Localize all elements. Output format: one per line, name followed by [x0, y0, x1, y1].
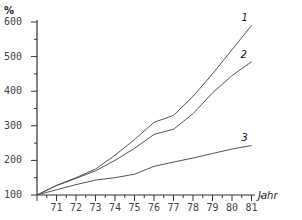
x-tick-label: 75	[129, 202, 141, 213]
y-tick-label: 300	[4, 120, 22, 131]
y-tick-label: 500	[4, 51, 22, 62]
x-axis-title: Jahr	[256, 190, 278, 201]
series-line-2	[37, 62, 252, 195]
line-chart: 100200300400500600 717273747576777879808…	[0, 0, 302, 220]
y-axis-unit-label: %	[4, 5, 14, 16]
y-tick-label: 200	[4, 154, 22, 165]
x-tick-label: 76	[148, 202, 160, 213]
x-tick-label: 74	[109, 202, 121, 213]
series-label-1: 1	[242, 12, 248, 23]
series-lines: 123	[37, 12, 252, 195]
x-tick-label: 79	[207, 202, 219, 213]
x-axis: 7172737475767778798081	[37, 195, 261, 213]
series-line-3	[37, 146, 252, 196]
x-tick-label: 80	[226, 202, 238, 213]
x-tick-label: 78	[187, 202, 199, 213]
x-tick-label: 77	[168, 202, 180, 213]
series-label-3: 3	[242, 132, 248, 143]
x-tick-label: 73	[90, 202, 102, 213]
x-tick-label: 71	[51, 202, 63, 213]
y-tick-label: 400	[4, 85, 22, 96]
y-axis: 100200300400500600	[4, 16, 37, 200]
series-line-1	[37, 26, 252, 196]
x-tick-label: 72	[70, 202, 82, 213]
x-tick-label: 81	[246, 202, 258, 213]
y-tick-label: 100	[4, 189, 22, 200]
y-tick-label: 600	[4, 16, 22, 27]
series-label-2: 2	[241, 49, 247, 60]
